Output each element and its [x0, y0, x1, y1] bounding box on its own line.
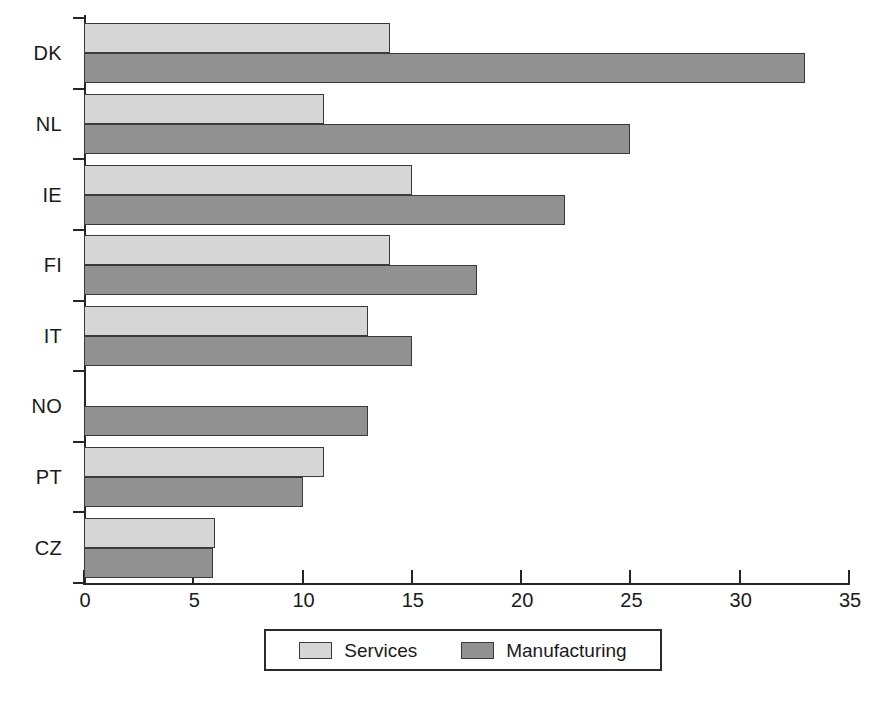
bar-dk-manufacturing — [84, 53, 805, 83]
y-axis-tick — [73, 17, 84, 19]
y-axis-category-label: FI — [0, 255, 62, 275]
legend-entry-manufacturing: Manufacturing — [461, 641, 626, 660]
x-axis-tick-label: 35 — [820, 589, 880, 611]
x-axis-line — [84, 583, 850, 585]
bar-nl-manufacturing — [84, 124, 630, 154]
bar-dk-services — [84, 23, 390, 53]
bar-pt-services — [84, 447, 324, 477]
y-axis-tick — [73, 441, 84, 443]
x-axis-tick-label: 20 — [492, 589, 552, 611]
bar-nl-services — [84, 94, 324, 124]
y-axis-category-label: IT — [0, 326, 62, 346]
bar-ie-services — [84, 165, 412, 195]
bar-no-manufacturing — [84, 406, 368, 436]
bar-cz-manufacturing — [84, 548, 213, 578]
y-axis-category-label: IE — [0, 185, 62, 205]
y-axis-category-label: NO — [0, 396, 62, 416]
bar-fi-manufacturing — [84, 265, 477, 295]
bar-ie-manufacturing — [84, 195, 565, 225]
y-axis-tick — [73, 229, 84, 231]
y-axis-tick — [73, 511, 84, 513]
x-axis-tick-label: 30 — [711, 589, 771, 611]
plot-area — [84, 18, 849, 583]
y-axis-tick — [73, 300, 84, 302]
legend-entry-services: Services — [299, 641, 417, 660]
y-axis-category-label: CZ — [0, 538, 62, 558]
y-axis-category-label: PT — [0, 467, 62, 487]
y-axis-tick — [73, 158, 84, 160]
x-axis-tick-label: 10 — [274, 589, 334, 611]
services-swatch — [299, 642, 332, 659]
legend-label: Services — [344, 641, 417, 660]
y-axis-category-label: NL — [0, 114, 62, 134]
y-axis-category-label: DK — [0, 43, 62, 63]
bar-it-services — [84, 306, 368, 336]
chart-legend: ServicesManufacturing — [264, 629, 662, 671]
bar-pt-manufacturing — [84, 477, 303, 507]
bar-fi-services — [84, 235, 390, 265]
manufacturing-swatch — [461, 642, 494, 659]
x-axis-tick-label: 5 — [164, 589, 224, 611]
bar-cz-services — [84, 518, 215, 548]
bar-it-manufacturing — [84, 336, 412, 366]
y-axis-tick — [73, 370, 84, 372]
scan-artifact-band — [0, 680, 896, 704]
y-axis-tick — [73, 88, 84, 90]
x-axis-tick-label: 0 — [55, 589, 115, 611]
x-axis-tick-label: 15 — [383, 589, 443, 611]
bar-chart: DKNLIEFIITNOPTCZ 05101520253035 Services… — [0, 0, 896, 704]
x-axis-tick-label: 25 — [601, 589, 661, 611]
legend-label: Manufacturing — [506, 641, 626, 660]
